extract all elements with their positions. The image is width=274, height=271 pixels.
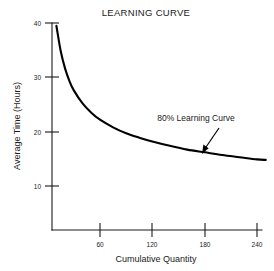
learning-curve-line — [56, 26, 265, 160]
x-tick-label-120: 120 — [147, 241, 158, 248]
y-tick-label-20: 20 — [34, 129, 42, 136]
y-tick-label-10: 10 — [34, 183, 42, 190]
y-tick-label-40: 40 — [34, 20, 42, 27]
annotation-label: 80% Learning Curve — [157, 113, 235, 123]
y-tick-label-30: 30 — [34, 74, 42, 81]
chart-canvas: LEARNING CURVE 40 30 20 10 60 120 180 24… — [0, 0, 274, 271]
learning-curve-chart: LEARNING CURVE 40 30 20 10 60 120 180 24… — [0, 0, 274, 271]
x-axis-label: Cumulative Quantity — [115, 254, 197, 264]
x-tick-label-180: 180 — [200, 241, 211, 248]
chart-title: LEARNING CURVE — [102, 7, 191, 18]
x-tick-label-60: 60 — [96, 241, 104, 248]
x-tick-label-240: 240 — [252, 241, 263, 248]
y-axis-label: Average Time (Hours) — [12, 82, 22, 170]
